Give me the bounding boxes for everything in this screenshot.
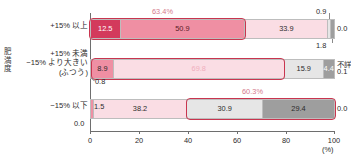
bar-segment-r2-s5: 29.4 (263, 99, 335, 119)
category-label-row-2: −15% 以下 (10, 101, 88, 110)
bar-value-r2-s5: 29.4 (291, 105, 305, 113)
bar-segment-r0-s1: 12.5 (90, 19, 121, 39)
bar-segment-r1-s5: 4.4 (324, 59, 335, 79)
x-tick-label-40: 40 (175, 136, 201, 145)
x-tick-60 (237, 131, 238, 134)
category-label-row-2-line-1: −15% 以下 (10, 101, 88, 110)
bar-row-2: 38.2 30.9 29.4 (90, 99, 335, 119)
x-tick-label-60: 60 (224, 136, 250, 145)
bar-value-r1-s3: 69.8 (192, 65, 206, 73)
x-axis-unit-label: (%) (322, 145, 334, 154)
bar-value-r2-s3: 38.2 (133, 105, 147, 113)
callout-r0-s4: 0.9 (316, 7, 326, 16)
x-tick-80 (286, 131, 287, 134)
bar-value-r1-s5: 4.4 (324, 65, 334, 73)
x-tick-100 (334, 131, 335, 134)
callout-r2-s1: 0.0 (74, 119, 84, 128)
category-label-row-1-line-2: −15% より大きい (6, 58, 88, 67)
callout-r0-s6: 0.0 (337, 24, 347, 33)
highlight-label-row-0: 63.4% (152, 7, 173, 16)
callout-r2-s2: 1.5 (94, 102, 104, 111)
callout-r1-s1: 0.8 (95, 77, 105, 86)
x-tick-label-0: 0 (77, 136, 103, 145)
bar-segment-r1-s3: 69.8 (114, 59, 285, 79)
category-label-row-0-line-1: +15% 以上 (10, 21, 88, 30)
bar-segment-r0-s2: 50.9 (121, 19, 246, 39)
category-label-row-1: +15% 未満 −15% より大きい (ふつう) (6, 49, 88, 77)
bar-segment-r0-s3: 33.9 (245, 19, 328, 39)
callout-r2-s6: 0.0 (337, 104, 347, 113)
x-axis-line (90, 131, 335, 132)
x-tick-0 (90, 131, 91, 134)
bar-segment-r1-s4: 15.9 (285, 59, 324, 79)
bar-value-r0-s1: 12.5 (98, 25, 112, 33)
x-tick-20 (139, 131, 140, 134)
x-tick-label-80: 80 (273, 136, 299, 145)
highlight-label-row-2: 60.3% (242, 87, 263, 96)
bar-value-r0-s2: 50.9 (175, 25, 189, 33)
bar-segment-r2-s4: 30.9 (187, 99, 263, 119)
callout-r0-s5: 1.8 (316, 41, 326, 50)
bar-value-r1-s2: 8.9 (97, 65, 107, 73)
bar-row-1: 8.9 69.8 15.9 4.4 (90, 59, 335, 79)
bar-value-r1-s4: 15.9 (297, 65, 311, 73)
x-tick-label-100: 100 (321, 136, 347, 145)
category-label-row-0: +15% 以上 (10, 21, 88, 30)
leader-r0-s5 (332, 39, 333, 43)
bar-segment-r0-s5 (331, 19, 335, 39)
bar-segment-r1-s2: 8.9 (92, 59, 114, 79)
bar-value-r2-s4: 30.9 (217, 105, 231, 113)
bar-segment-r2-s3: 38.2 (94, 99, 188, 119)
bar-value-r0-s3: 33.9 (279, 25, 293, 33)
category-label-row-1-line-3: (ふつう) (6, 68, 88, 77)
x-tick-label-20: 20 (126, 136, 152, 145)
x-tick-40 (188, 131, 189, 134)
plot-area: 0 20 40 60 80 100 (%) 12.5 50.9 33.9 0.9… (90, 13, 335, 131)
category-label-row-1-line-1: +15% 未満 (6, 49, 88, 58)
leader-r0-s4 (329, 13, 330, 19)
callout-r1-s6: 0.1 (337, 67, 347, 76)
stacked-bar-chart: 肥 満 度 +15% 以上 +15% 未満 −15% より大きい (ふつう) −… (0, 0, 351, 159)
bar-row-0: 12.5 50.9 33.9 (90, 19, 335, 39)
